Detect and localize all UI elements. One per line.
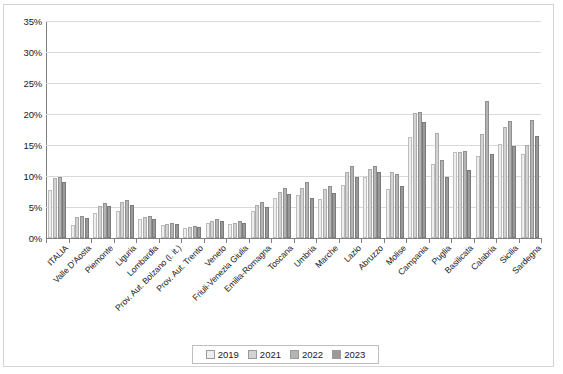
bar (525, 145, 529, 238)
bar (130, 205, 134, 238)
bar (215, 219, 219, 238)
bar (62, 182, 66, 238)
bar (395, 174, 399, 238)
bar (503, 127, 507, 238)
bar (463, 151, 467, 238)
bar-group (91, 21, 114, 238)
bar-group (204, 21, 227, 238)
y-axis-tick-label: 30% (2, 47, 42, 58)
chart-container: 0%5%10%15%20%25%30%35% ITALIAValle D'Aos… (3, 4, 554, 367)
x-axis-tick (541, 238, 542, 243)
bar (431, 164, 435, 238)
bar (120, 202, 124, 238)
bar (71, 225, 75, 238)
bar (296, 195, 300, 238)
bar (377, 172, 381, 238)
y-axis-tick-label: 5% (2, 202, 42, 213)
bar (453, 152, 457, 238)
bar (408, 137, 412, 238)
legend-item[interactable]: 2021 (248, 349, 281, 360)
bar (530, 120, 534, 238)
bar (107, 206, 111, 238)
bar-group (114, 21, 137, 238)
bar (161, 225, 165, 238)
bar (116, 211, 120, 238)
bar (445, 177, 449, 238)
bar (422, 122, 426, 238)
bar (485, 101, 489, 238)
bar (328, 186, 332, 238)
bar (233, 223, 237, 239)
bar (165, 224, 169, 238)
bar (310, 198, 314, 238)
bar (238, 221, 242, 238)
bar (48, 190, 52, 238)
bar (138, 219, 142, 238)
legend-swatch-icon (206, 350, 215, 359)
bar (58, 177, 62, 238)
bar (188, 227, 192, 238)
bar-group (159, 21, 182, 238)
bar-group (249, 21, 272, 238)
bar (341, 185, 345, 238)
bar (265, 207, 269, 238)
bar (413, 113, 417, 238)
y-axis-tick-label: 35% (2, 16, 42, 27)
legend-swatch-icon (248, 350, 257, 359)
bar-group (181, 21, 204, 238)
bar (75, 217, 79, 238)
bar (125, 200, 129, 238)
legend-item[interactable]: 2019 (206, 349, 239, 360)
bar (390, 172, 394, 238)
bar (53, 178, 57, 238)
bar (467, 170, 471, 238)
bar-group (474, 21, 497, 238)
bar (323, 189, 327, 238)
bar (183, 228, 187, 238)
bar (193, 226, 197, 238)
bar (355, 177, 359, 238)
bar (368, 169, 372, 238)
legend-swatch-icon (290, 350, 299, 359)
bar (143, 217, 147, 238)
bar (255, 205, 259, 238)
bar (435, 133, 439, 238)
bar (458, 152, 462, 238)
bar-series-layer (46, 21, 541, 238)
y-axis-tick-label: 15% (2, 140, 42, 151)
bar-group (316, 21, 339, 238)
x-axis-tick-label: Umbria (292, 243, 318, 269)
bar (318, 199, 322, 238)
bar-group (271, 21, 294, 238)
bar (332, 193, 336, 238)
bar-group (294, 21, 317, 238)
bar (521, 154, 525, 238)
bar-group (384, 21, 407, 238)
legend-label: 2023 (344, 349, 365, 360)
bar (480, 134, 484, 238)
bar (170, 223, 174, 238)
bar (242, 223, 246, 239)
bar (197, 227, 201, 238)
bar (260, 202, 264, 238)
bar (278, 192, 282, 239)
bar (283, 188, 287, 238)
bar (400, 186, 404, 238)
bar-group (46, 21, 69, 238)
bar-group (226, 21, 249, 238)
legend-label: 2019 (218, 349, 239, 360)
bar (300, 188, 304, 238)
bar-group (519, 21, 542, 238)
bar (80, 216, 84, 238)
bar (148, 216, 152, 238)
legend-item[interactable]: 2022 (290, 349, 323, 360)
bar (98, 206, 102, 238)
plot-area (46, 21, 541, 238)
chart-legend: 2019202120222023 (192, 345, 379, 364)
bar (287, 194, 291, 238)
bar (93, 213, 97, 238)
bar (251, 211, 255, 238)
legend-item[interactable]: 2023 (332, 349, 365, 360)
bar (210, 221, 214, 238)
bar-group (339, 21, 362, 238)
